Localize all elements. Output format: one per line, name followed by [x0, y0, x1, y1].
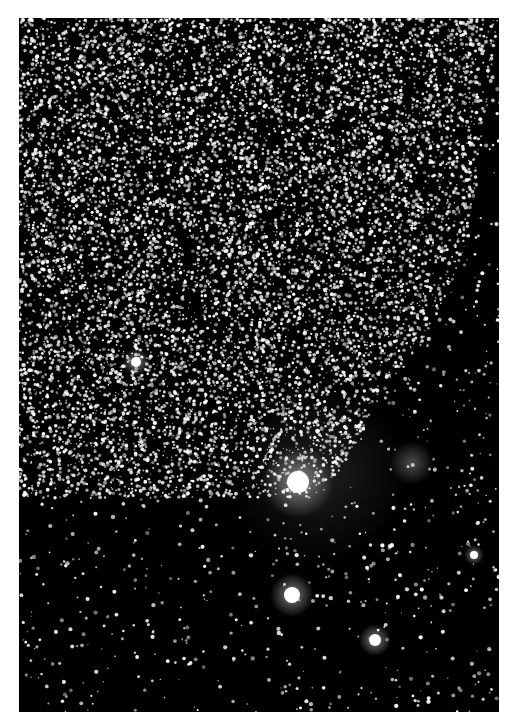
- star-field-canvas: [19, 18, 499, 712]
- star-field-photo: Astronomical photograph of a dense star …: [19, 18, 499, 712]
- image-description: Astronomical photograph of a dense star …: [19, 712, 20, 713]
